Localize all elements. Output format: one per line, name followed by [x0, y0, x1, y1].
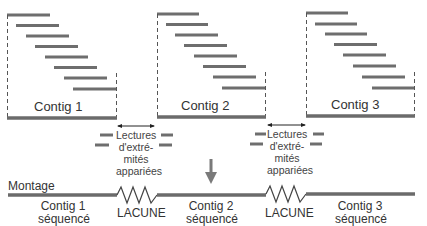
contig-1-label: Contig 1 [34, 100, 82, 113]
assembly-segment-1-label: Contig 1 séquencé [38, 200, 88, 226]
paired-end-2-label: Lectures d'extré- mités appariées [267, 128, 307, 176]
paired-end-1-label: Lectures d'extré- mités appariées [116, 129, 156, 177]
contig-2-label: Contig 2 [181, 99, 229, 112]
assembly-gap-2-label: LACUNE [265, 207, 307, 220]
assembly-segment-3-label: Contig 3 séquencé [335, 200, 385, 226]
contig-2-reads [157, 14, 265, 88]
contig-3-label: Contig 3 [331, 98, 379, 111]
assembly-title: Montage [8, 180, 55, 193]
down-arrow-icon [205, 159, 217, 184]
contig-3-reads [306, 13, 414, 88]
contig-1-reads [7, 15, 116, 89]
assembly-segment-2-label: Contig 2 séquencé [186, 200, 236, 226]
assembly-gap-1-label: LACUNE [117, 207, 159, 220]
